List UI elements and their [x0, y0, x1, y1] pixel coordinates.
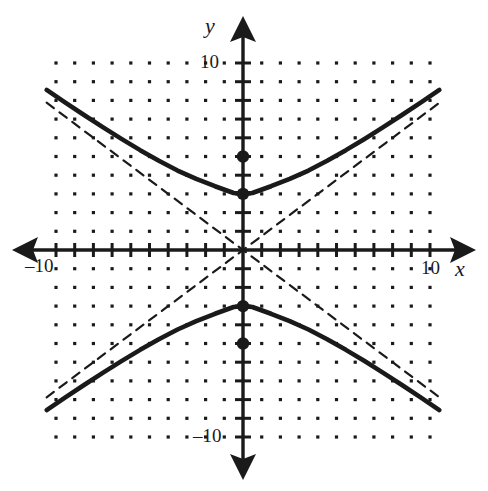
grid-dot — [410, 99, 413, 102]
grid-dot — [129, 342, 132, 345]
grid-dot — [335, 192, 338, 195]
grid-dot — [204, 80, 207, 83]
grid-dot — [148, 61, 151, 64]
grid-dot — [185, 61, 188, 64]
grid-dot — [111, 118, 114, 121]
grid-dot — [298, 61, 301, 64]
grid-dot — [92, 305, 95, 308]
grid-dot — [279, 99, 282, 102]
grid-dot — [428, 342, 431, 345]
grid-dot — [410, 267, 413, 270]
grid-dot — [354, 99, 357, 102]
grid-dot — [354, 80, 357, 83]
grid-dot — [148, 230, 151, 233]
grid-dot — [372, 136, 375, 139]
grid-dot — [92, 417, 95, 420]
grid-dot — [111, 323, 114, 326]
grid-dot — [204, 155, 207, 158]
grid-dot — [167, 61, 170, 64]
grid-dot — [185, 230, 188, 233]
grid-dot — [73, 417, 76, 420]
grid-dot — [111, 286, 114, 289]
grid-dot — [410, 286, 413, 289]
grid-dot — [428, 174, 431, 177]
grid-dot — [316, 379, 319, 382]
y-axis-name-label: y — [205, 15, 215, 37]
grid-dot — [129, 192, 132, 195]
grid-dot — [428, 361, 431, 364]
grid-dot — [428, 305, 431, 308]
grid-dot — [92, 342, 95, 345]
grid-dot — [428, 211, 431, 214]
grid-dot — [129, 286, 132, 289]
grid-dot — [223, 398, 226, 401]
grid-dot — [372, 286, 375, 289]
grid-dot — [354, 155, 357, 158]
grid-dot — [279, 174, 282, 177]
grid-dot — [185, 379, 188, 382]
grid-dot — [372, 267, 375, 270]
grid-dot — [223, 174, 226, 177]
grid-dot — [372, 323, 375, 326]
grid-dot — [335, 417, 338, 420]
grid-dot — [54, 136, 57, 139]
grid-dot — [223, 267, 226, 270]
grid-dot — [354, 267, 357, 270]
grid-dot — [354, 286, 357, 289]
grid-dot — [204, 379, 207, 382]
grid-dot — [223, 136, 226, 139]
grid-dot — [92, 435, 95, 438]
grid-dot — [129, 379, 132, 382]
grid-dot — [92, 155, 95, 158]
grid-dot — [372, 192, 375, 195]
grid-dot — [316, 118, 319, 121]
grid-dot — [148, 379, 151, 382]
grid-dot — [410, 323, 413, 326]
grid-dot — [354, 342, 357, 345]
grid-dot — [148, 286, 151, 289]
grid-dot — [148, 136, 151, 139]
grid-dot — [167, 155, 170, 158]
grid-dot — [316, 417, 319, 420]
grid-dot — [129, 417, 132, 420]
grid-dot — [111, 155, 114, 158]
grid-dot — [279, 435, 282, 438]
grid-dot — [204, 286, 207, 289]
grid-dot — [185, 155, 188, 158]
grid-dot — [298, 155, 301, 158]
grid-dot — [428, 155, 431, 158]
grid-dot — [372, 435, 375, 438]
grid-dot — [54, 267, 57, 270]
grid-dot — [335, 398, 338, 401]
grid-dot — [372, 61, 375, 64]
grid-dot — [372, 305, 375, 308]
grid-dot — [129, 230, 132, 233]
grid-dot — [372, 379, 375, 382]
grid-dot — [204, 398, 207, 401]
focus-upper-marker — [237, 150, 249, 162]
grid-dot — [73, 136, 76, 139]
grid-dot — [410, 136, 413, 139]
grid-dot — [223, 379, 226, 382]
grid-dot — [111, 80, 114, 83]
grid-dot — [167, 398, 170, 401]
x-axis-tick-label-neg10: –10 — [25, 256, 54, 275]
grid-dot — [204, 211, 207, 214]
grid-dot — [372, 417, 375, 420]
grid-dot — [298, 379, 301, 382]
grid-dot — [335, 99, 338, 102]
grid-dot — [54, 286, 57, 289]
grid-dot — [428, 417, 431, 420]
grid-dot — [298, 118, 301, 121]
grid-dot — [298, 435, 301, 438]
grid-dot — [391, 174, 394, 177]
grid-dot — [391, 342, 394, 345]
grid-dot — [54, 174, 57, 177]
grid-dot — [260, 99, 263, 102]
grid-dot — [316, 155, 319, 158]
grid-dot — [167, 80, 170, 83]
grid-dot — [428, 379, 431, 382]
grid-dot — [428, 323, 431, 326]
grid-dot — [185, 136, 188, 139]
grid-dot — [185, 267, 188, 270]
